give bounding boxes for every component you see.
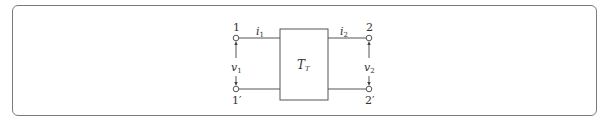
two-port-diagram: 1 1′ 2 2′ i1 i2 v1 v2 TT (0, 0, 607, 122)
v2-arrowhead-down-icon (367, 82, 370, 86)
current-i2-label: i2 (340, 25, 348, 39)
terminal-1-prime (233, 86, 239, 92)
block-label: TT (297, 58, 311, 73)
terminal-2-prime-label: 2′ (365, 94, 375, 107)
current-i1-label: i1 (256, 25, 264, 39)
voltage-v2-label: v2 (364, 61, 375, 75)
terminal-2-label: 2 (366, 21, 373, 34)
voltage-v1-label: v1 (231, 61, 242, 75)
v1-arrowhead-up-icon (234, 41, 237, 45)
terminal-1 (233, 35, 239, 41)
terminal-2-prime (366, 86, 372, 92)
terminal-2 (366, 35, 372, 41)
terminal-1-prime-label: 1′ (232, 94, 242, 107)
v2-arrowhead-up-icon (367, 41, 370, 45)
v1-arrowhead-down-icon (234, 82, 237, 86)
terminal-1-label: 1 (233, 21, 240, 34)
